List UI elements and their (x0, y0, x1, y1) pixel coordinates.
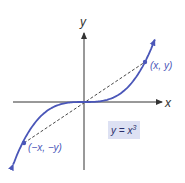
point-negative-label: (−x, −y) (28, 142, 62, 153)
point-positive (143, 60, 147, 64)
equation-exponent: 3 (132, 124, 136, 131)
x-axis-label: x (164, 96, 172, 110)
point-negative (22, 141, 26, 145)
y-axis-label: y (79, 15, 87, 29)
point-positive-label: (x, y) (150, 60, 172, 71)
equation-base: y = x (110, 125, 133, 136)
graph: x y (x, y) (−x, −y) y = x3 (0, 0, 185, 183)
